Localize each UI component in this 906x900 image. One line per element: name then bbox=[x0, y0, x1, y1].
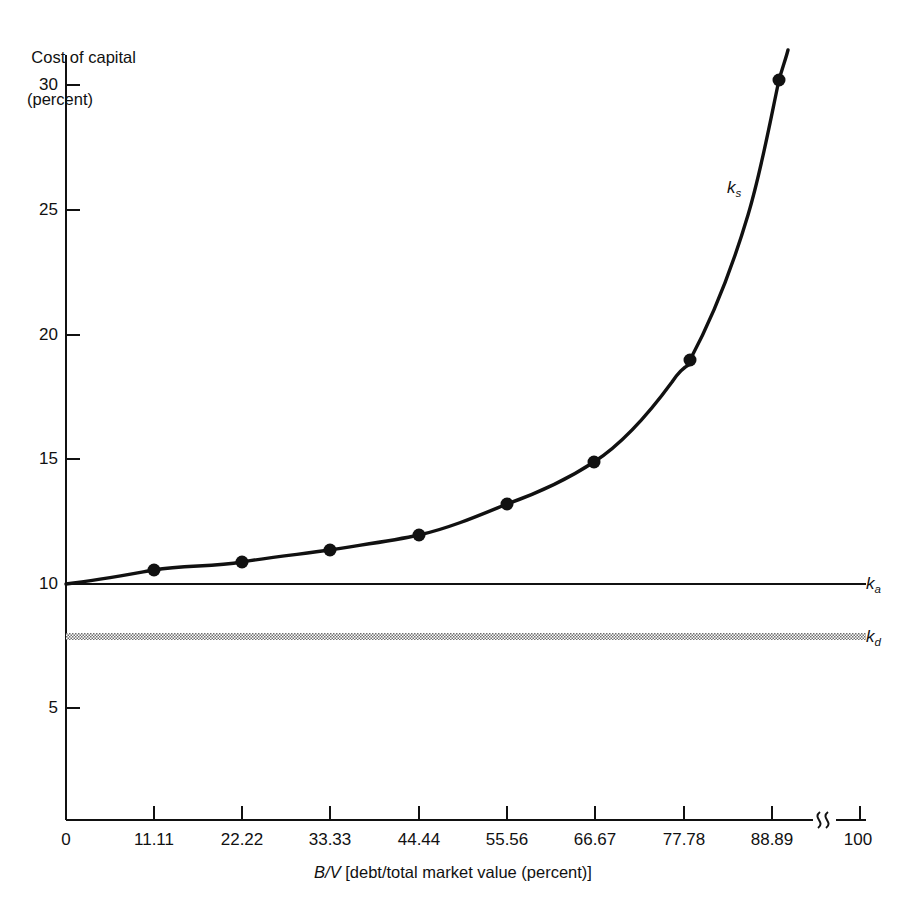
plot-area bbox=[0, 0, 906, 900]
data-point-marker bbox=[588, 456, 601, 469]
y-tick-marks bbox=[66, 85, 80, 708]
series-line-ks bbox=[66, 50, 788, 584]
data-point-marker bbox=[773, 74, 786, 87]
series-line-kd bbox=[66, 633, 866, 640]
chart-figure: Cost of capital (percent) B/V [debt/tota… bbox=[0, 0, 906, 900]
series-markers-ks bbox=[148, 74, 786, 577]
x-tick-marks bbox=[154, 806, 860, 820]
data-point-marker bbox=[148, 564, 161, 577]
series-line-ks-helper bbox=[66, 353, 690, 584]
axis-break-icon bbox=[817, 812, 828, 828]
data-point-marker bbox=[236, 556, 249, 569]
data-point-marker bbox=[324, 544, 337, 557]
data-point-marker bbox=[413, 529, 426, 542]
data-point-marker bbox=[684, 354, 697, 367]
data-point-marker bbox=[501, 498, 514, 511]
